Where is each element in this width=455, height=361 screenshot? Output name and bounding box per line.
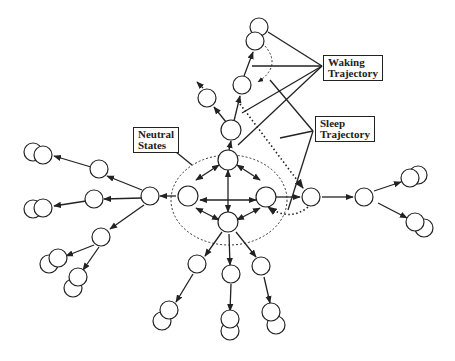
state-transition-diagram — [0, 0, 455, 361]
neutral-states-label: Neutral States — [133, 127, 179, 153]
waking-trajectory-label: Waking Trajectory — [323, 55, 383, 81]
label-pointers — [176, 32, 322, 210]
left-branch — [54, 156, 176, 270]
sleep-trajectory-label: Sleep Trajectory — [315, 116, 375, 142]
